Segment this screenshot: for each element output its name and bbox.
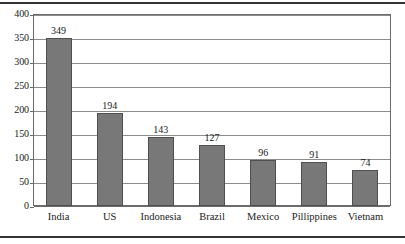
bottom-horizontal-rule	[0, 236, 405, 238]
bar[interactable]	[352, 170, 378, 206]
x-axis-tick-labels: IndiaUSIndonesiaBrazilMexicoPillippinesV…	[33, 210, 391, 228]
y-tick-label: 50	[0, 177, 29, 187]
top-horizontal-rule	[0, 2, 405, 4]
bar-value-label: 74	[360, 158, 370, 168]
x-tick-label: Pillippines	[292, 210, 337, 224]
bar-slot: 143	[135, 14, 186, 206]
y-tick-label: 0	[0, 201, 29, 211]
bar-slot: 349	[33, 14, 84, 206]
y-tick-label: 150	[0, 129, 29, 139]
y-tick-label: 300	[0, 57, 29, 67]
x-tick-label: India	[48, 210, 70, 224]
bar-slot: 96	[238, 14, 289, 206]
bar-value-label: 194	[102, 101, 117, 111]
bar[interactable]	[46, 38, 72, 206]
bar[interactable]	[148, 137, 174, 206]
x-tick-label: Vietnam	[348, 210, 384, 224]
x-tick-label: Brazil	[199, 210, 225, 224]
bar[interactable]	[199, 145, 225, 206]
y-tick-label: 100	[0, 153, 29, 163]
y-tick-label: 200	[0, 105, 29, 115]
bar-value-label: 96	[258, 148, 268, 158]
y-axis-tick-labels: 050100150200250300350400	[0, 0, 29, 244]
bar-value-label: 91	[309, 150, 319, 160]
gridline	[34, 206, 390, 207]
bar-slot: 74	[340, 14, 391, 206]
y-tick-label: 400	[0, 9, 29, 19]
x-tick-label: Indonesia	[140, 210, 181, 224]
bar[interactable]	[250, 160, 276, 206]
bar-value-label: 143	[153, 125, 168, 135]
bar-value-label: 349	[51, 26, 66, 36]
bar-slot: 127	[186, 14, 237, 206]
x-tick-label: US	[103, 210, 116, 224]
bar-chart-figure: 050100150200250300350400 349194143127969…	[0, 0, 405, 244]
y-tick-label: 350	[0, 33, 29, 43]
bar-value-label: 127	[204, 133, 219, 143]
bar-series: 349194143127969174	[33, 14, 391, 206]
bar-slot: 91	[289, 14, 340, 206]
bar-slot: 194	[84, 14, 135, 206]
y-tick-mark	[30, 207, 34, 208]
bar[interactable]	[97, 113, 123, 206]
y-tick-label: 250	[0, 81, 29, 91]
bar[interactable]	[301, 162, 327, 206]
x-tick-label: Mexico	[247, 210, 279, 224]
